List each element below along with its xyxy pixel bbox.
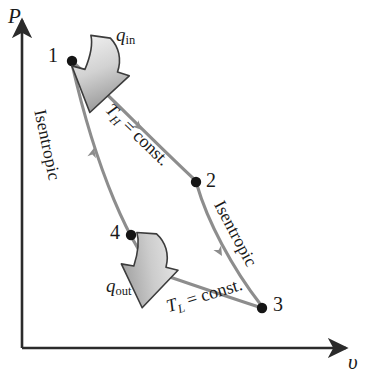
q-out-label: qout	[106, 276, 132, 295]
state-dot-3	[257, 303, 267, 313]
state-label-4: 4	[110, 222, 120, 242]
state-dot-4	[126, 230, 136, 240]
q-in-subscript: in	[126, 33, 136, 47]
x-axis-label: υ	[348, 352, 358, 373]
y-axis-label: P	[8, 6, 21, 27]
q-in-label: qin	[116, 25, 135, 44]
state-label-1: 1	[48, 45, 58, 65]
state-dot-2	[191, 177, 201, 187]
state-label-2: 2	[206, 170, 216, 190]
state-label-3: 3	[273, 294, 283, 314]
q-out-subscript: out	[116, 284, 132, 298]
pv-diagram-figure: P υ 1 2 3 4 qin qout TH = const. Isentro…	[0, 0, 369, 386]
state-dot-1	[67, 56, 77, 66]
